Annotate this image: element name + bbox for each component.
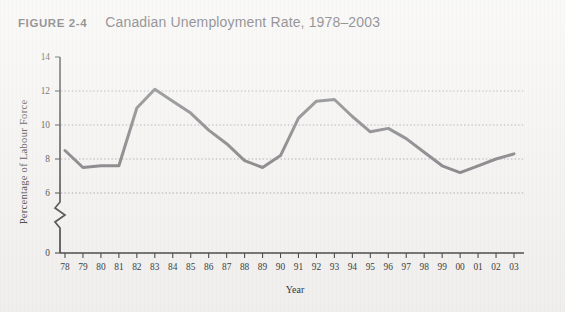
- x-tick-label-82: 82: [132, 262, 142, 272]
- x-tick-label-00: 00: [455, 262, 465, 272]
- x-tick-label-87: 87: [222, 262, 232, 272]
- axis-ticks-group: [55, 57, 514, 258]
- unemployment-line-chart: 068101214 787980818283848586878889909192…: [0, 0, 565, 312]
- x-tick-label-95: 95: [366, 262, 376, 272]
- x-tick-label-94: 94: [348, 262, 358, 272]
- axis-lines-group: [55, 57, 524, 253]
- x-tick-label-80: 80: [96, 262, 106, 272]
- x-tick-labels-group: 7879808182838485868788899091929394959697…: [60, 262, 519, 272]
- y-tick-label-8: 8: [45, 154, 50, 164]
- y-tick-label-10: 10: [41, 120, 51, 130]
- data-series-line: [65, 89, 514, 172]
- x-tick-label-83: 83: [150, 262, 160, 272]
- x-tick-label-01: 01: [473, 262, 483, 272]
- x-tick-label-91: 91: [294, 262, 304, 272]
- chart-area: 068101214 787980818283848586878889909192…: [0, 0, 565, 312]
- x-tick-label-96: 96: [384, 262, 394, 272]
- x-tick-label-79: 79: [78, 262, 88, 272]
- x-tick-label-88: 88: [240, 262, 250, 272]
- x-tick-label-97: 97: [402, 262, 412, 272]
- x-tick-label-92: 92: [312, 262, 322, 272]
- x-tick-label-84: 84: [168, 262, 178, 272]
- x-tick-label-89: 89: [258, 262, 268, 272]
- x-tick-label-78: 78: [60, 262, 70, 272]
- x-tick-label-86: 86: [204, 262, 214, 272]
- gridlines-group: [61, 91, 524, 193]
- y-tick-label-6: 6: [45, 188, 50, 198]
- x-tick-label-85: 85: [186, 262, 196, 272]
- y-axis-line: [55, 57, 65, 253]
- x-tick-label-99: 99: [437, 262, 447, 272]
- y-axis-title: Percentage of Labour Force: [18, 100, 29, 225]
- x-tick-label-03: 03: [509, 262, 519, 272]
- x-tick-label-98: 98: [420, 262, 430, 272]
- y-tick-label-12: 12: [41, 86, 51, 96]
- y-tick-labels-group: 068101214: [41, 52, 51, 258]
- x-axis-title: Year: [286, 284, 305, 295]
- y-tick-label-14: 14: [41, 52, 51, 62]
- y-tick-label-0: 0: [45, 248, 50, 258]
- x-tick-label-02: 02: [491, 262, 501, 272]
- x-tick-label-90: 90: [276, 262, 286, 272]
- x-tick-label-81: 81: [114, 262, 124, 272]
- figure-card: FIGURE 2-4 Canadian Unemployment Rate, 1…: [0, 0, 565, 312]
- x-tick-label-93: 93: [330, 262, 340, 272]
